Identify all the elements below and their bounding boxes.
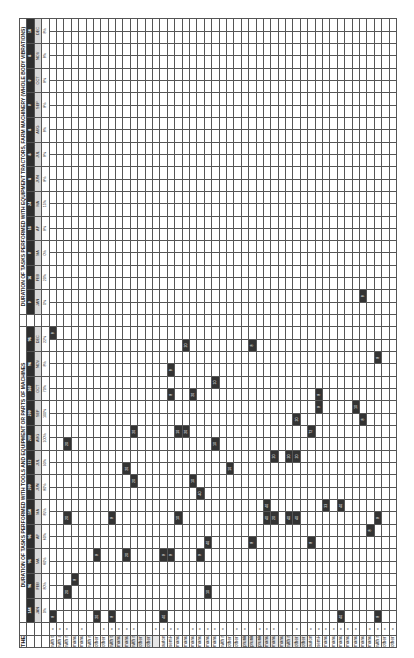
duration-cell[interactable] (271, 68, 278, 80)
duration-cell[interactable] (315, 611, 322, 623)
duration-cell[interactable] (56, 450, 63, 462)
duration-cell[interactable] (234, 142, 241, 154)
duration-cell[interactable] (263, 549, 270, 561)
duration-cell[interactable] (315, 278, 322, 290)
duration-cell[interactable] (175, 413, 182, 425)
duration-cell[interactable] (226, 43, 233, 55)
duration-cell[interactable] (138, 352, 145, 364)
duration-cell[interactable] (389, 56, 396, 68)
duration-cell[interactable] (204, 265, 211, 277)
duration-cell[interactable] (130, 117, 137, 129)
duration-cell[interactable] (138, 401, 145, 413)
duration-cell[interactable] (308, 290, 315, 302)
duration-cell[interactable] (352, 228, 359, 240)
duration-cell[interactable] (49, 191, 56, 203)
duration-cell[interactable] (64, 130, 71, 142)
duration-cell[interactable] (86, 290, 93, 302)
duration-cell[interactable] (204, 191, 211, 203)
duration-cell[interactable] (323, 327, 330, 339)
duration-cell[interactable] (226, 278, 233, 290)
duration-cell[interactable] (93, 537, 100, 549)
duration-cell[interactable] (352, 68, 359, 80)
duration-cell[interactable] (345, 56, 352, 68)
duration-cell[interactable] (79, 352, 86, 364)
duration-cell[interactable] (56, 117, 63, 129)
duration-cell[interactable] (108, 80, 115, 92)
duration-cell[interactable] (293, 241, 300, 253)
duration-cell[interactable] (241, 130, 248, 142)
duration-cell[interactable] (271, 611, 278, 623)
duration-cell[interactable] (167, 426, 174, 438)
duration-cell[interactable] (56, 167, 63, 179)
duration-cell[interactable] (263, 43, 270, 55)
duration-cell[interactable] (330, 179, 337, 191)
duration-cell[interactable] (138, 154, 145, 166)
duration-cell[interactable] (79, 376, 86, 388)
duration-cell[interactable] (367, 598, 374, 610)
duration-cell[interactable] (212, 56, 219, 68)
duration-cell[interactable] (138, 228, 145, 240)
duration-cell[interactable] (86, 512, 93, 524)
duration-cell[interactable] (300, 19, 307, 32)
duration-cell[interactable] (71, 611, 78, 623)
duration-cell[interactable] (175, 611, 182, 623)
duration-cell[interactable] (116, 574, 123, 586)
duration-cell[interactable] (197, 302, 204, 314)
duration-cell[interactable] (71, 93, 78, 105)
duration-cell[interactable] (56, 561, 63, 573)
duration-cell[interactable]: 8 (49, 611, 56, 623)
duration-cell[interactable] (278, 586, 285, 598)
duration-cell[interactable] (234, 389, 241, 401)
duration-cell[interactable] (56, 339, 63, 351)
duration-cell[interactable] (263, 450, 270, 462)
duration-cell[interactable] (153, 154, 160, 166)
duration-cell[interactable] (219, 339, 226, 351)
duration-cell[interactable] (219, 80, 226, 92)
duration-cell[interactable] (345, 401, 352, 413)
duration-cell[interactable] (249, 130, 256, 142)
duration-cell[interactable] (389, 241, 396, 253)
duration-cell[interactable] (308, 154, 315, 166)
duration-cell[interactable] (86, 302, 93, 314)
duration-cell[interactable] (86, 376, 93, 388)
duration-cell[interactable] (49, 167, 56, 179)
duration-cell[interactable] (359, 216, 366, 228)
duration-cell[interactable] (286, 611, 293, 623)
duration-cell[interactable] (300, 389, 307, 401)
duration-cell[interactable] (330, 142, 337, 154)
duration-cell[interactable] (241, 204, 248, 216)
duration-cell[interactable] (167, 154, 174, 166)
duration-cell[interactable] (153, 117, 160, 129)
duration-cell[interactable] (241, 487, 248, 499)
duration-cell[interactable] (352, 364, 359, 376)
duration-cell[interactable] (49, 339, 56, 351)
duration-cell[interactable] (271, 105, 278, 117)
duration-cell[interactable] (345, 376, 352, 388)
duration-cell[interactable] (315, 524, 322, 536)
duration-cell[interactable] (145, 475, 152, 487)
duration-cell[interactable] (167, 204, 174, 216)
duration-cell[interactable] (204, 463, 211, 475)
duration-cell[interactable] (293, 364, 300, 376)
duration-cell[interactable] (108, 352, 115, 364)
duration-cell[interactable] (86, 549, 93, 561)
duration-cell[interactable] (182, 204, 189, 216)
duration-cell[interactable] (241, 561, 248, 573)
duration-cell[interactable] (226, 253, 233, 265)
duration-cell[interactable] (64, 352, 71, 364)
duration-cell[interactable] (359, 302, 366, 314)
duration-cell[interactable] (330, 228, 337, 240)
duration-cell[interactable] (286, 167, 293, 179)
duration-cell[interactable] (71, 586, 78, 598)
duration-cell[interactable] (374, 549, 381, 561)
duration-cell[interactable] (56, 56, 63, 68)
duration-cell[interactable] (278, 117, 285, 129)
duration-cell[interactable] (64, 228, 71, 240)
duration-cell[interactable]: 8 (308, 537, 315, 549)
duration-cell[interactable] (352, 426, 359, 438)
duration-cell[interactable] (93, 302, 100, 314)
duration-cell[interactable] (352, 93, 359, 105)
duration-cell[interactable] (189, 43, 196, 55)
duration-cell[interactable] (175, 537, 182, 549)
duration-cell[interactable] (330, 191, 337, 203)
